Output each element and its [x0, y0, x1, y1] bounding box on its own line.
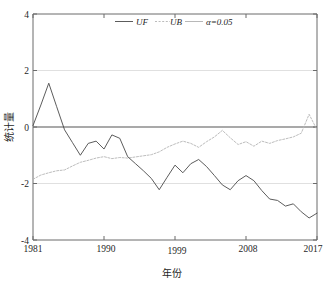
legend-label-ub: UB [170, 17, 182, 27]
y-tick-label-2: 0 [24, 123, 29, 133]
x-tick-labels: 1981 1990 1999 2008 2017 [24, 244, 323, 256]
data-series [33, 83, 317, 218]
y-tick-labels: 4 2 0 -2 -4 [21, 10, 29, 246]
y-tick-label-3: -2 [21, 179, 29, 189]
legend-label-uf: UF [136, 17, 148, 27]
y-axis-title: 统计量 [3, 112, 15, 142]
mann-kendall-plot: 4 2 0 -2 -4 1981 1990 1999 2008 2017 年份 … [0, 0, 329, 286]
series-line-ub [33, 114, 317, 179]
y-tick-label-1: 2 [24, 66, 29, 76]
x-axis-title: 年份 [162, 267, 182, 279]
x-tick-label-1: 1990 [97, 244, 116, 254]
legend-label-alpha: α=0.05 [206, 17, 233, 27]
x-tick-label-3: 2008 [239, 244, 258, 254]
x-tick-label-2: 1999 [168, 246, 187, 256]
series-line-uf [33, 83, 317, 218]
chart-figure: 4 2 0 -2 -4 1981 1990 1999 2008 2017 年份 … [0, 0, 329, 286]
x-tick-label-4: 2017 [304, 244, 323, 254]
legend: UF UB α=0.05 [115, 17, 233, 27]
y-tick-label-0: 4 [24, 10, 29, 20]
x-tick-label-0: 1981 [24, 244, 43, 254]
